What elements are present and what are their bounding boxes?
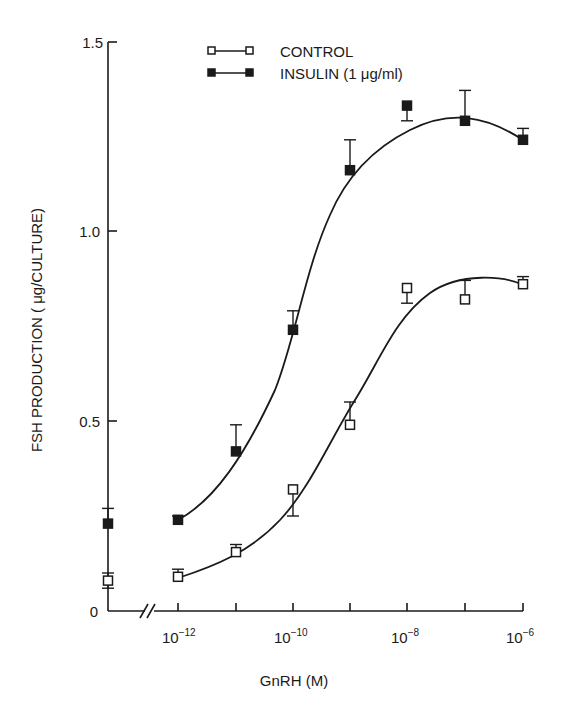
legend-insulin-label: INSULIN (1 μg/ml)	[280, 65, 403, 82]
x-tick-label: 10−8	[391, 627, 420, 646]
insulin-data-point	[403, 101, 412, 110]
data-points	[102, 90, 529, 588]
x-axis	[108, 603, 523, 618]
svg-text:10−6: 10−6	[506, 627, 535, 646]
y-tick-label: 0.5	[79, 413, 100, 430]
svg-text:10−10: 10−10	[274, 627, 308, 646]
x-tick-label: 10−10	[274, 627, 308, 646]
control-data-point	[519, 280, 528, 289]
control-data-point	[232, 548, 241, 557]
y-axis-label: FSH PRODUCTION ( μg/CULTURE)	[28, 208, 45, 452]
insulin-data-point	[289, 325, 298, 334]
x-tick-label: 10−6	[506, 627, 535, 646]
chart: 0 0.5 1.0 1.5 10−12 10−10 10−8 10−6 GnRH…	[0, 0, 568, 706]
control-data-point	[461, 295, 470, 304]
control-data-point	[403, 284, 412, 293]
legend-control-label: CONTROL	[280, 43, 353, 60]
legend-insulin-marker	[208, 69, 253, 76]
insulin-data-point	[519, 135, 528, 144]
x-tick-label: 10−12	[162, 627, 196, 646]
control-data-point	[104, 576, 113, 585]
y-tick-label: 0	[90, 603, 98, 620]
y-tick-label: 1.5	[82, 34, 103, 51]
x-axis-label: GnRH (M)	[260, 672, 328, 689]
control-data-point	[289, 485, 298, 494]
control-data-point	[346, 420, 355, 429]
insulin-data-point	[232, 447, 241, 456]
insulin-curve	[178, 118, 523, 520]
legend-control-marker	[208, 47, 253, 54]
svg-text:10−8: 10−8	[391, 627, 420, 646]
insulin-data-point	[461, 116, 470, 125]
legend: CONTROL INSULIN (1 μg/ml)	[208, 43, 403, 82]
insulin-data-point	[104, 519, 113, 528]
svg-text:10−12: 10−12	[162, 627, 196, 646]
insulin-data-point	[174, 515, 183, 524]
y-tick-label: 1.0	[79, 223, 100, 240]
insulin-data-point	[346, 166, 355, 175]
control-data-point	[174, 572, 183, 581]
